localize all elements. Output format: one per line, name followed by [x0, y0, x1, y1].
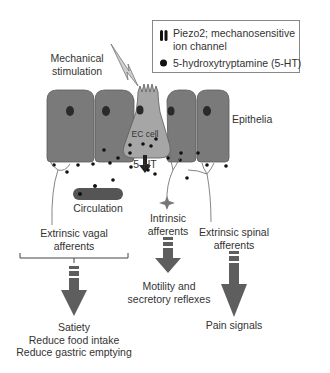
outcome-vagal: Satiety Reduce food intake Reduce gastri…	[9, 321, 139, 359]
outcome-motility-line2: secretory reflexes	[126, 293, 212, 306]
nucleus	[66, 106, 74, 116]
legend-serotonin-label: 5-hydroxytryptamine (5-HT)	[173, 57, 301, 70]
spinal-outcome-arrow	[221, 251, 247, 317]
label-mechanical-line2: stimulation	[48, 65, 106, 78]
legend-piezo2-line1: Piezo2; mechanosensitive	[173, 27, 295, 40]
label-mechanical-stimulation: Mechanical stimulation	[48, 52, 106, 77]
label-intrinsic-line2: afferents	[140, 225, 196, 238]
label-circulation: Circulation	[70, 202, 126, 215]
piezo2-channel-icon	[159, 29, 169, 43]
lightning-icon	[111, 44, 138, 86]
label-spinal-line2: afferents	[194, 239, 274, 252]
label-spinal-line1: Extrinsic spinal	[194, 226, 274, 239]
vagal-outcome-arrow	[61, 266, 87, 316]
label-vagal-afferents: Extrinsic vagal afferents	[14, 227, 134, 252]
epithelial-layer	[47, 84, 229, 162]
outcome-reduce-food-intake: Reduce food intake	[9, 334, 139, 347]
label-5-ht: 5-HT	[129, 158, 161, 171]
nucleus	[203, 106, 211, 116]
outcome-motility-line1: Motility and	[126, 280, 212, 293]
epithelial-cell	[47, 90, 94, 162]
outcome-pain-signals: Pain signals	[200, 319, 268, 332]
legend-box: Piezo2; mechanosensitive ion channel 5-h…	[152, 20, 300, 73]
nucleus	[168, 107, 175, 116]
intrinsic-outcome-arrow	[155, 237, 181, 273]
outcome-satiety: Satiety	[9, 321, 139, 334]
vagal-nerve	[49, 160, 70, 225]
epithelial-cell	[167, 90, 196, 162]
label-mechanical-line1: Mechanical	[48, 52, 106, 65]
epithelial-cell	[197, 90, 229, 162]
intrinsic-neuron-icon	[159, 196, 175, 210]
outcome-spinal: Pain signals	[200, 319, 268, 332]
label-vagal-line1: Extrinsic vagal	[14, 227, 134, 240]
legend-piezo2-line2: ion channel	[173, 40, 295, 53]
label-spinal-afferents: Extrinsic spinal afferents	[194, 226, 274, 251]
outcome-intrinsic: Motility and secretory reflexes	[126, 280, 212, 305]
label-ec-cell: EC cell	[127, 128, 163, 141]
label-vagal-line2: afferents	[14, 240, 134, 253]
label-intrinsic-line1: Intrinsic	[140, 212, 196, 225]
nucleus	[102, 106, 110, 116]
serotonin-dot-icon	[159, 58, 169, 68]
label-intrinsic-afferents: Intrinsic afferents	[140, 212, 196, 237]
outcome-reduce-gastric-emptying: Reduce gastric emptying	[9, 346, 139, 359]
vagal-bracket	[20, 253, 128, 263]
label-epithelia: Epithelia	[232, 113, 272, 126]
nucleus	[137, 106, 144, 115]
diagram-canvas: Piezo2; mechanosensitive ion channel 5-h…	[0, 0, 330, 373]
